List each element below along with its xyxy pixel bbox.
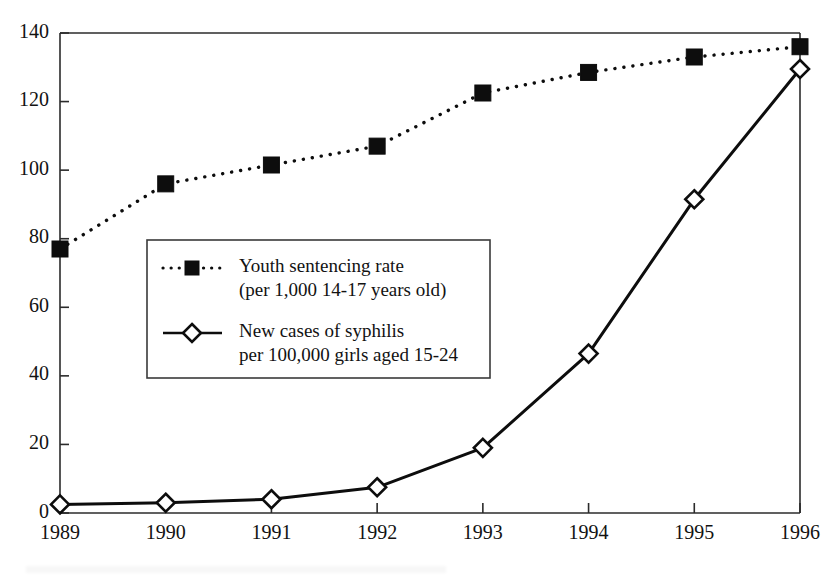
x-axis-tick-label: 1989	[40, 521, 80, 543]
data-point-square	[263, 157, 279, 173]
data-point-diamond	[51, 495, 69, 513]
x-axis-tick-label: 1992	[357, 521, 397, 543]
data-point-square	[158, 176, 174, 192]
data-point-square	[369, 138, 385, 154]
data-point-square	[686, 49, 702, 65]
data-point-square	[792, 39, 808, 55]
y-axis-tick-label: 100	[19, 157, 49, 179]
y-axis-labels: 020406080100120140	[19, 20, 49, 522]
chart-canvas: 020406080100120140 198919901991199219931…	[0, 0, 828, 578]
legend-label-syphilis-line1: New cases of syphilis	[239, 320, 404, 341]
data-point-diamond	[262, 490, 280, 508]
data-point-diamond	[368, 478, 386, 496]
x-axis-labels: 19891990199119921993199419951996	[40, 521, 820, 543]
y-axis-tick-label: 140	[19, 20, 49, 42]
y-axis-tick-label: 20	[29, 431, 49, 453]
y-axis-tick-label: 40	[29, 362, 49, 384]
x-axis-tick-label: 1996	[780, 521, 820, 543]
y-axis-tick-label: 60	[29, 294, 49, 316]
data-point-square	[475, 85, 491, 101]
chart-legend: Youth sentencing rate (per 1,000 14-17 y…	[147, 240, 490, 378]
y-axis-tick-label: 120	[19, 88, 49, 110]
legend-label-syphilis-line2: per 100,000 girls aged 15-24	[239, 344, 458, 365]
x-axis-tick-label: 1995	[674, 521, 714, 543]
x-axis-tick-label: 1991	[251, 521, 291, 543]
x-axis-tick-label: 1994	[569, 521, 609, 543]
y-axis-tick-group	[60, 33, 69, 513]
legend-label-youth-line1: Youth sentencing rate	[239, 255, 404, 276]
data-point-square	[581, 64, 597, 80]
x-axis-tick-label: 1993	[463, 521, 503, 543]
y-axis-tick-label: 0	[39, 500, 49, 522]
series-line-1	[60, 47, 800, 249]
y-axis-tick-label: 80	[29, 225, 49, 247]
line-chart: 020406080100120140 198919901991199219931…	[0, 0, 828, 578]
data-point-square	[52, 241, 68, 257]
legend-square-marker-icon	[185, 261, 199, 275]
data-point-diamond	[157, 494, 175, 512]
series-1	[52, 39, 808, 257]
x-axis-tick-label: 1990	[146, 521, 186, 543]
legend-label-youth-line2: (per 1,000 14-17 years old)	[239, 279, 446, 301]
